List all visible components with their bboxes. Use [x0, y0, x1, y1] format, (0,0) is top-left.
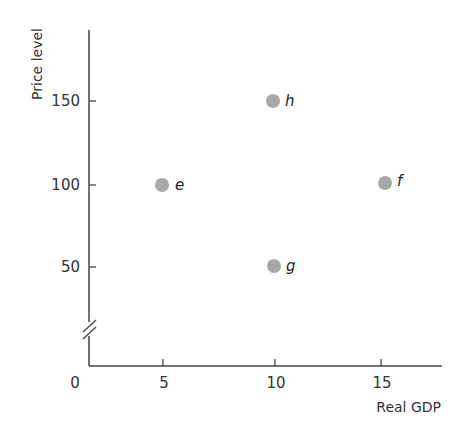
point-label: h	[285, 92, 295, 110]
x-tick-label: 10	[266, 374, 285, 392]
x-axis-title: Real GDP	[376, 399, 441, 415]
point-label: f	[397, 172, 405, 190]
chart-canvas: 150 100 50 5 10 15 0 Real GDP Price leve…	[0, 0, 458, 426]
x-tick-label: 15	[372, 374, 391, 392]
origin-label: 0	[70, 374, 80, 392]
point-h: h	[266, 92, 295, 110]
y-tick-label: 50	[61, 258, 80, 276]
y-axis-title: Price level	[29, 28, 45, 100]
point-label: g	[286, 257, 296, 275]
y-tick-label: 150	[51, 92, 80, 110]
point-f: f	[378, 172, 405, 190]
y-tick-label: 100	[51, 176, 80, 194]
point-e: e	[155, 176, 184, 194]
point-g: g	[267, 257, 296, 275]
y-tick-50: 50	[61, 258, 96, 276]
x-tick-label: 5	[159, 374, 169, 392]
x-tick-15: 15	[372, 359, 391, 392]
x-tick-10: 10	[266, 359, 285, 392]
point-label: e	[175, 176, 184, 194]
x-tick-5: 5	[159, 359, 169, 392]
